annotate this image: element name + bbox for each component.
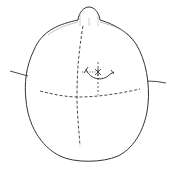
forehead-shading <box>100 22 134 40</box>
asterisk-target-point <box>95 68 101 76</box>
left-ear <box>10 71 28 76</box>
head-outline <box>25 20 148 161</box>
dashed-sagittal-midline <box>77 26 83 146</box>
nose-shading <box>80 14 98 26</box>
right-ear <box>147 81 166 83</box>
head-diagram <box>0 0 173 169</box>
dashed-coronal-line <box>40 89 140 97</box>
diagram-canvas: Superior view of head with surgical land… <box>0 0 173 169</box>
